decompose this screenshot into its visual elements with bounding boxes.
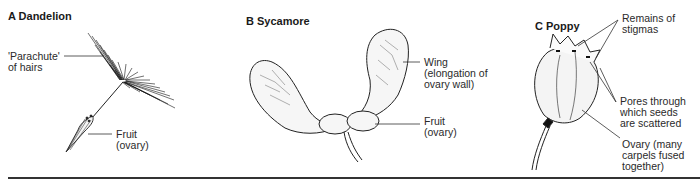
panel-b-title: B Sycamore — [246, 15, 310, 27]
diagram-artwork — [0, 0, 700, 186]
poppy-ovary-label: Ovary (many carpels fused together) — [622, 139, 684, 172]
bottom-rule-divider — [8, 177, 700, 179]
sycamore-wing-label: Wing (elongation of ovary wall) — [424, 57, 488, 90]
poppy-stigmas-label: Remains of stigmas — [622, 13, 675, 35]
dandelion-parachute-label: 'Parachute' of hairs — [8, 51, 60, 73]
panel-c-title: C Poppy — [535, 20, 580, 32]
poppy-pores-label: Pores through which seeds are scattered — [620, 96, 686, 129]
dandelion-fruit-label: Fruit (ovary) — [116, 129, 149, 151]
dandelion-fruit-illustration — [66, 82, 123, 152]
dandelion-parachute-illustration — [88, 33, 175, 108]
poppy-capsule-illustration — [532, 34, 600, 170]
sycamore-fruit-label: Fruit (ovary) — [424, 116, 457, 138]
panel-a-title: A Dandelion — [8, 10, 72, 22]
